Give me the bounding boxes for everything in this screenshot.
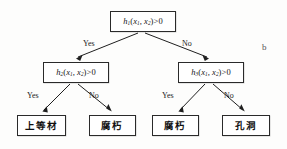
node-leaf-2[interactable]: 腐朽 bbox=[89, 115, 136, 136]
leaf-1-label: 上等材 bbox=[25, 121, 58, 131]
edge-root-to-h3 bbox=[145, 33, 209, 61]
edge-label-left-no: No bbox=[89, 92, 99, 100]
node-left-condition[interactable]: h2(x1, x2)>0 bbox=[43, 62, 109, 83]
node-right-condition[interactable]: h3(x1, x2)>0 bbox=[178, 62, 244, 83]
right-expression: h3(x1, x2)>0 bbox=[191, 68, 231, 77]
leaf-4-label: 孔洞 bbox=[235, 121, 257, 131]
left-expression: h2(x1, x2)>0 bbox=[56, 68, 96, 77]
edge-label-right-no: No bbox=[224, 92, 234, 100]
edge-label-right-yes: Yes bbox=[162, 92, 174, 100]
edge-label-left-yes: Yes bbox=[27, 92, 39, 100]
leaf-2-label: 腐朽 bbox=[101, 121, 123, 131]
node-leaf-1[interactable]: 上等材 bbox=[17, 115, 66, 136]
figure-sublabel: b bbox=[262, 43, 267, 52]
edge-label-root-no: No bbox=[182, 40, 192, 48]
edge-h2-to-leaf1 bbox=[42, 84, 70, 112]
root-expression: h1(x1, x2)>0 bbox=[123, 17, 163, 26]
node-root-condition[interactable]: h1(x1, x2)>0 bbox=[110, 11, 176, 32]
node-leaf-3[interactable]: 腐朽 bbox=[152, 115, 199, 136]
edge-h3-to-leaf3 bbox=[178, 84, 205, 112]
node-leaf-4[interactable]: 孔洞 bbox=[222, 115, 270, 136]
edge-label-root-yes: Yes bbox=[83, 40, 95, 48]
leaf-3-label: 腐朽 bbox=[164, 121, 186, 131]
decision-tree-figure: h1(x1, x2)>0 h2(x1, x2)>0 h3(x1, x2)>0 上… bbox=[0, 0, 287, 149]
